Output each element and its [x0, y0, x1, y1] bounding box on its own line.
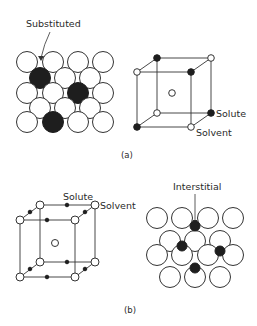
- caption-b: (b): [124, 305, 136, 315]
- interstitial-unit-cell: Solute Solvent: [16, 191, 136, 281]
- substitutional-unit-cell: Solute Solvent: [134, 55, 247, 138]
- caption-a: (a): [121, 150, 133, 160]
- solute-atom: [43, 112, 64, 133]
- solvent-label-a: Solvent: [196, 127, 232, 138]
- solvent-label-b: Solvent: [100, 200, 136, 211]
- substitutional-lattice: Substituted: [17, 18, 114, 133]
- solute-label-a: Solute: [216, 108, 246, 119]
- body-center-atom: [52, 240, 59, 247]
- solid-solution-diagram: Substituted: [0, 0, 257, 326]
- interstitial-atom: [190, 263, 200, 273]
- substituted-label: Substituted: [26, 18, 81, 29]
- interstitial-label: Interstitial: [173, 181, 221, 192]
- solute-label-b: Solute: [63, 191, 93, 202]
- interstitial-lattice: Interstitial: [147, 181, 244, 288]
- interstitial-atom: [215, 246, 225, 256]
- interstitial-atom: [177, 241, 187, 251]
- interstitial-atom: [190, 221, 200, 231]
- body-center-atom: [169, 90, 176, 97]
